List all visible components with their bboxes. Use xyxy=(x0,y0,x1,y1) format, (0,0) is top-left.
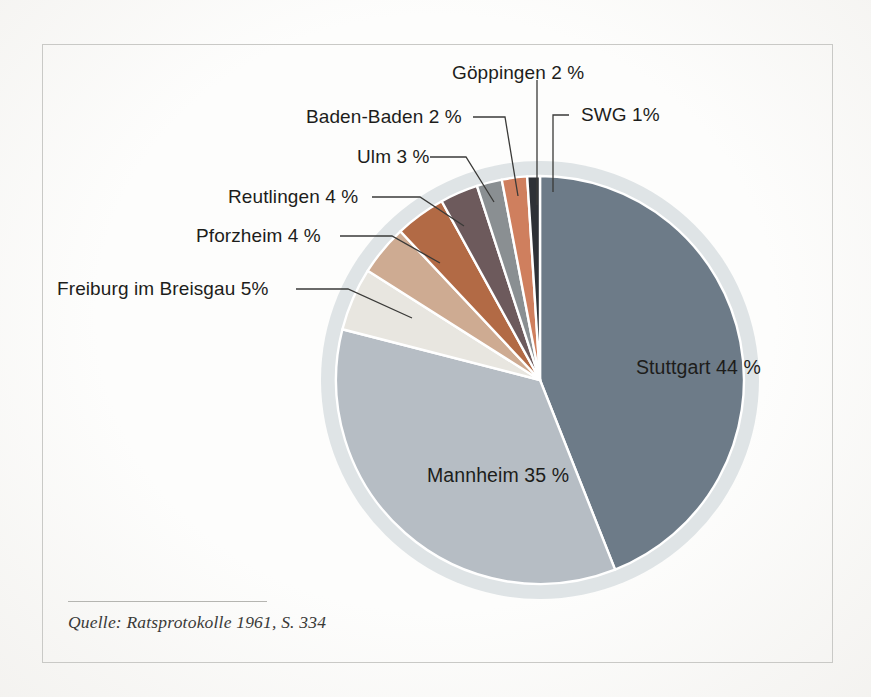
callout-label-reutlingen: Reutlingen 4 % xyxy=(228,186,358,208)
pie-slice-label: Stuttgart 44 % xyxy=(636,356,761,379)
figure-page: Stuttgart 44 %Mannheim 35 % Freiburg im … xyxy=(0,0,871,697)
callout-label-ulm: Ulm 3 % xyxy=(357,146,430,168)
callout-label-swg: SWG 1% xyxy=(581,104,660,126)
source-note: Quelle: Ratsprotokolle 1961, S. 334 xyxy=(68,612,326,633)
callout-label-goeppingen: Göppingen 2 % xyxy=(452,62,584,84)
pie-chart-svg xyxy=(0,0,871,697)
callout-label-pforzheim: Pforzheim 4 % xyxy=(196,225,321,247)
pie-chart: Stuttgart 44 %Mannheim 35 % Freiburg im … xyxy=(0,0,871,697)
callout-label-baden-baden: Baden-Baden 2 % xyxy=(306,106,462,128)
pie-slice-label: Mannheim 35 % xyxy=(427,464,569,487)
callout-label-freiburg-im-breisgau: Freiburg im Breisgau 5% xyxy=(57,278,268,300)
source-divider xyxy=(68,601,267,602)
pie-slices xyxy=(336,176,744,584)
